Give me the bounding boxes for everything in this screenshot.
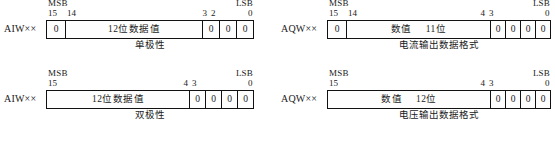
bit-cell-1: 0	[219, 21, 236, 38]
bit-cell-0: 0	[535, 91, 550, 108]
bit-field-data: 12位数据值	[47, 91, 189, 108]
lsb-label-unipolar: LSB	[236, 0, 253, 8]
bit-field-width-label: 11位	[426, 25, 446, 35]
caption-current: 电流输出数据格式	[399, 41, 479, 51]
bitfield-box-unipolar: 0 12位数据值 0 0 0	[46, 20, 254, 39]
bit-field-data-label: 12位数据值	[108, 25, 160, 35]
msb-label-bipolar: MSB	[48, 69, 68, 78]
bitfield-box-bipolar: 12位数据值 0 0 0 0	[46, 90, 254, 109]
bit-cell-2: 0	[205, 91, 221, 108]
bit-tick-2: 2	[211, 9, 216, 18]
bit-cell-0: 0	[535, 21, 550, 38]
bit-field-data: 数值 12位	[328, 91, 490, 108]
msb-label-current: MSB	[329, 0, 349, 8]
bit-cell-15: 0	[47, 21, 65, 38]
caption-bipolar: 双极性	[135, 111, 165, 121]
bitfield-box-voltage: 数值 12位 0 0 0 0	[327, 90, 551, 109]
diagram-analog-output-current: AQW×× MSB LSB 15 14 4 3 0 0 数值 11位 0 0 0…	[281, 2, 553, 62]
bit-field-data: 数值 11位	[346, 21, 490, 38]
bit-cell-3: 0	[490, 21, 505, 38]
bit-cell-1: 0	[221, 91, 237, 108]
bit-cell-2: 0	[505, 21, 520, 38]
diagram-analog-input-bipolar: AIW×× MSB LSB 15 4 3 0 12位数据值 0 0 0 0 双极…	[4, 72, 276, 134]
bit-tick-3: 3	[192, 79, 197, 88]
bit-field-value-label: 数值	[381, 95, 402, 105]
bit-tick-4: 4	[184, 79, 189, 88]
msb-label-voltage: MSB	[329, 69, 349, 78]
bit-tick-14: 14	[67, 9, 76, 18]
bit-field-value-label: 数值	[391, 25, 412, 35]
bit-cell-2: 0	[202, 21, 219, 38]
bit-tick-3: 3	[203, 9, 208, 18]
bitfield-box-current: 0 数值 11位 0 0 0 0	[327, 20, 551, 39]
diagram-analog-input-unipolar: AIW×× MSB LSB 15 14 3 2 0 0 12位数据值 0 0 0…	[4, 2, 276, 62]
msb-label-unipolar: MSB	[48, 0, 68, 8]
row-label-aiw-bipolar: AIW××	[4, 94, 36, 104]
bit-tick-4: 4	[481, 9, 486, 18]
bit-cell-3: 0	[490, 91, 505, 108]
bit-tick-15: 15	[329, 79, 338, 88]
caption-unipolar: 单极性	[135, 41, 165, 51]
bit-cell-3: 0	[189, 91, 205, 108]
bit-cell-0: 0	[236, 21, 253, 38]
bit-field-data: 12位数据值	[65, 21, 202, 38]
bit-field-data-label: 12位数据值	[92, 95, 144, 105]
lsb-label-bipolar: LSB	[236, 69, 253, 78]
bit-tick-0: 0	[248, 79, 253, 88]
diagram-analog-output-voltage: AQW×× MSB LSB 15 4 3 0 数值 12位 0 0 0 0 电压…	[281, 72, 553, 134]
bit-tick-0: 0	[248, 9, 253, 18]
row-label-aqw-current: AQW××	[281, 24, 317, 34]
bit-cell-2: 0	[505, 91, 520, 108]
bit-cell-1: 0	[520, 91, 535, 108]
bit-cell-1: 0	[520, 21, 535, 38]
bit-tick-0: 0	[545, 79, 550, 88]
row-label-aiw-unipolar: AIW××	[4, 24, 36, 34]
lsb-label-current: LSB	[533, 0, 550, 8]
bit-cell-0: 0	[237, 91, 253, 108]
bit-tick-0: 0	[545, 9, 550, 18]
bit-tick-3: 3	[489, 9, 494, 18]
bit-tick-4: 4	[481, 79, 486, 88]
bit-tick-15: 15	[329, 9, 338, 18]
bit-tick-15: 15	[48, 9, 57, 18]
lsb-label-voltage: LSB	[533, 69, 550, 78]
bit-field-width-label: 12位	[416, 95, 437, 105]
bit-tick-15: 15	[48, 79, 57, 88]
bit-cell-15: 0	[328, 21, 346, 38]
bit-tick-3: 3	[489, 79, 494, 88]
row-label-aqw-voltage: AQW××	[281, 94, 317, 104]
caption-voltage: 电压输出数据格式	[399, 111, 479, 121]
bit-tick-14: 14	[348, 9, 357, 18]
